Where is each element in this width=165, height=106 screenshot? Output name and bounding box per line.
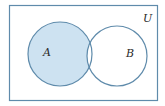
universe-label: U	[143, 12, 153, 25]
set-b-label: B	[125, 47, 134, 60]
venn-diagram: U A B	[0, 0, 165, 106]
set-a-label: A	[42, 46, 51, 59]
